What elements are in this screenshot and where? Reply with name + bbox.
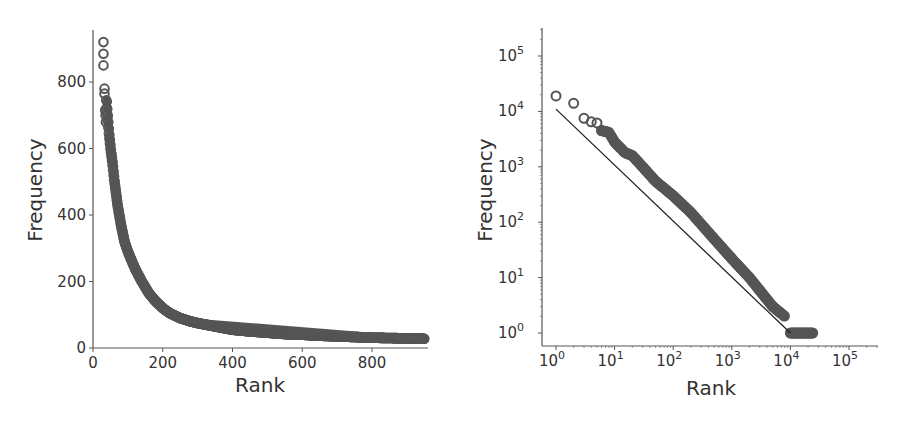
y-tick-label: 100 bbox=[498, 321, 524, 342]
right-chart-panel: 100101102103104105 100101102103104105 Ra… bbox=[473, 28, 878, 400]
y-tick-label: 800 bbox=[57, 73, 86, 91]
y-tick-label: 102 bbox=[498, 210, 524, 231]
y-tick-label: 104 bbox=[498, 99, 524, 120]
data-point bbox=[552, 91, 561, 100]
y-tick-label: 400 bbox=[57, 206, 86, 224]
data-point bbox=[99, 49, 108, 58]
x-tick-label: 104 bbox=[773, 349, 799, 370]
x-tick-label: 200 bbox=[148, 354, 177, 372]
x-tick-label: 0 bbox=[88, 354, 98, 372]
left-y-axis-label: Frequency bbox=[23, 138, 47, 241]
x-tick-label: 100 bbox=[539, 349, 565, 370]
right-y-ticks: 100101102103104105 bbox=[498, 30, 542, 342]
y-tick-label: 103 bbox=[498, 155, 524, 176]
x-tick-label: 101 bbox=[598, 349, 624, 370]
y-tick-label: 600 bbox=[57, 140, 86, 158]
right-scatter-points bbox=[552, 91, 818, 337]
y-tick-label: 101 bbox=[498, 266, 524, 287]
x-tick-label: 103 bbox=[715, 349, 741, 370]
right-y-axis-label: Frequency bbox=[473, 138, 497, 241]
left-y-ticks: 0200400600800 bbox=[57, 73, 93, 357]
reference-line bbox=[556, 109, 790, 333]
x-tick-label: 600 bbox=[288, 354, 317, 372]
data-point bbox=[99, 38, 108, 47]
x-tick-label: 105 bbox=[832, 349, 858, 370]
y-tick-label: 200 bbox=[57, 273, 86, 291]
x-tick-label: 102 bbox=[656, 349, 682, 370]
right-x-axis-label: Rank bbox=[686, 376, 736, 400]
left-x-ticks: 0200400600800 bbox=[88, 348, 386, 372]
left-scatter-points bbox=[99, 38, 428, 343]
x-tick-label: 800 bbox=[358, 354, 387, 372]
right-x-ticks: 100101102103104105 bbox=[539, 346, 877, 370]
data-point bbox=[808, 329, 817, 338]
y-tick-label: 0 bbox=[76, 339, 86, 357]
x-tick-label: 400 bbox=[218, 354, 247, 372]
y-tick-label: 105 bbox=[498, 44, 524, 65]
data-point bbox=[780, 312, 789, 321]
left-x-axis-label: Rank bbox=[235, 373, 285, 397]
left-chart-panel: 0200400600800 0200400600800 Rank Frequen… bbox=[23, 30, 429, 397]
data-point bbox=[99, 61, 108, 70]
data-point bbox=[569, 99, 578, 108]
figure: 0200400600800 0200400600800 Rank Frequen… bbox=[0, 0, 897, 424]
